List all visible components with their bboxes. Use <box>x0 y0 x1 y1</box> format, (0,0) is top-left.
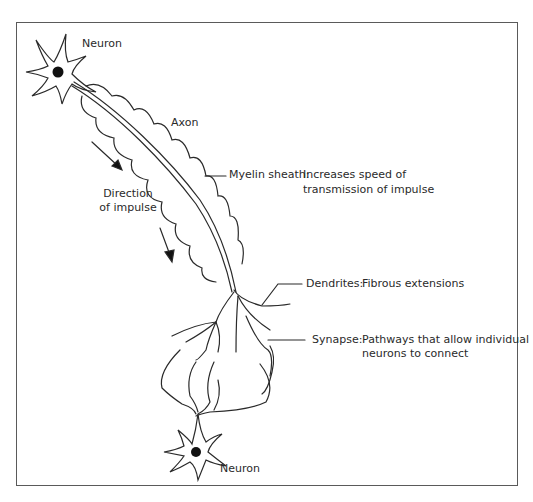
direction-arrow-icon <box>92 142 122 170</box>
callout-term: Synapse: <box>312 333 362 347</box>
bottom-neuron-icon <box>164 414 226 480</box>
direction-arrow-icon <box>160 228 174 262</box>
callout-desc-line1: Fibrous extensions <box>362 277 464 291</box>
neuron-diagram <box>0 0 533 502</box>
top-neuron-label: Neuron <box>82 37 122 51</box>
callout-term: Myelin sheath: <box>229 168 310 182</box>
axon-label: Axon <box>171 116 198 130</box>
callout-desc-line2: transmission of impulse <box>303 183 434 197</box>
dendrites-leader-line <box>262 284 302 305</box>
dendrites-icon <box>161 290 290 416</box>
callout-desc-line1: Increases speed of <box>303 168 406 182</box>
callout-desc-line2: neurons to connect <box>362 347 468 361</box>
myelin-sheath-icon <box>81 84 243 282</box>
callout-term: Dendrites: <box>306 277 363 291</box>
callout-desc-line1: Pathways that allow individual <box>362 333 529 347</box>
bottom-neuron-label: Neuron <box>220 462 260 476</box>
direction-label-line1: Direction <box>93 187 163 201</box>
direction-label-line2: of impulse <box>93 201 163 215</box>
